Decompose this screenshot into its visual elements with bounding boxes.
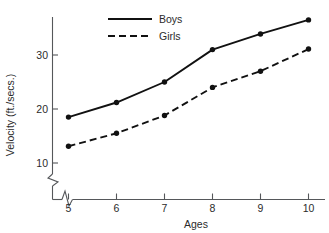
- data-point: [258, 31, 263, 36]
- data-point: [210, 47, 215, 52]
- chart-canvas: 30 20 10 5 6 7 8 9 10 Ages Velocity (ft.…: [0, 0, 329, 233]
- y-tick-label-30: 30: [36, 49, 48, 61]
- y-tick-label-20: 20: [36, 103, 48, 115]
- data-point: [306, 17, 311, 22]
- x-tick-label-6: 6: [114, 202, 120, 214]
- x-tick-marks: [69, 194, 309, 200]
- data-point: [162, 113, 167, 118]
- data-point: [258, 69, 263, 74]
- series-boys-markers: [66, 17, 311, 120]
- y-axis-title: Velocity (ft./secs.): [4, 74, 16, 156]
- y-tick-label-10: 10: [36, 157, 48, 169]
- series-girls-line: [69, 49, 309, 146]
- x-tick-label-10: 10: [303, 202, 315, 214]
- y-axis-break-mark: [48, 174, 58, 186]
- legend-label-boys: Boys: [159, 13, 182, 25]
- data-point: [162, 79, 167, 84]
- data-point: [66, 114, 71, 119]
- series-girls-markers: [66, 46, 311, 149]
- velocity-by-age-line-chart: 30 20 10 5 6 7 8 9 10 Ages Velocity (ft.…: [0, 0, 329, 233]
- data-point: [114, 100, 119, 105]
- x-tick-label-8: 8: [210, 202, 216, 214]
- x-tick-label-5: 5: [66, 202, 72, 214]
- series-boys-group: [66, 17, 311, 120]
- x-axis-title: Ages: [184, 218, 208, 230]
- series-girls-group: [66, 46, 311, 149]
- series-boys-line: [69, 20, 309, 117]
- legend-label-girls: Girls: [159, 30, 181, 42]
- data-point: [210, 85, 215, 90]
- chart-legend: Boys Girls: [108, 13, 182, 42]
- data-point: [66, 144, 71, 149]
- y-tick-labels: 30 20 10: [36, 49, 48, 169]
- x-tick-label-7: 7: [162, 202, 168, 214]
- x-tick-labels: 5 6 7 8 9 10: [66, 202, 315, 214]
- x-tick-label-9: 9: [258, 202, 264, 214]
- y-tick-marks: [53, 55, 59, 163]
- data-point: [306, 46, 311, 51]
- data-point: [114, 131, 119, 136]
